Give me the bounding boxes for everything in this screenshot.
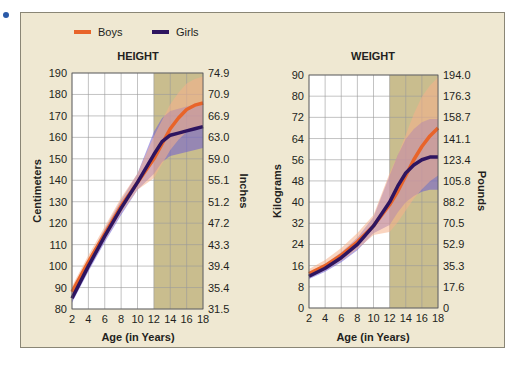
x-tick-label: 12 [148, 313, 160, 325]
y-tick-label-right: 35.3 [443, 260, 464, 272]
weight-ylabel: Kilograms [271, 164, 283, 218]
y-tick-label: 64 [292, 133, 304, 145]
y-tick-label: 16 [292, 260, 304, 272]
height-chart: HEIGHT Age (in Years) Centimeters Inches… [31, 50, 250, 343]
x-tick-label: 6 [102, 313, 108, 325]
x-tick-label: 4 [322, 312, 328, 324]
y-tick-label-right: 176.3 [443, 90, 471, 102]
y-tick-label: 130 [49, 196, 67, 208]
weight-ylabel-right: Pounds [476, 171, 488, 211]
x-tick-label: 16 [181, 313, 193, 325]
x-tick-label: 14 [164, 313, 176, 325]
y-tick-label-right: 51.2 [208, 196, 229, 208]
x-tick-label: 14 [400, 312, 412, 324]
legend-swatch-boys [74, 30, 91, 34]
x-tick-label: 8 [118, 313, 124, 325]
y-tick-label-right: 63.0 [208, 131, 229, 143]
y-tick-label-right: 17.6 [443, 281, 464, 293]
y-tick-label: 190 [49, 67, 67, 79]
y-tick-label-right: 43.3 [208, 239, 229, 251]
x-tick-label: 2 [306, 312, 312, 324]
y-tick-label: 120 [49, 217, 67, 229]
x-tick-label: 10 [131, 313, 143, 325]
y-tick-label-right: 47.2 [208, 217, 229, 229]
y-tick-label: 90 [292, 69, 304, 81]
y-tick-label-right: 66.9 [208, 110, 229, 122]
x-tick-label: 6 [338, 312, 344, 324]
y-tick-label-right: 39.4 [208, 260, 229, 272]
y-tick-label: 32 [292, 217, 304, 229]
y-tick-label-right: 52.9 [443, 238, 464, 250]
y-tick-label-right: 88.2 [443, 196, 464, 208]
x-tick-label: 16 [416, 312, 428, 324]
y-tick-label: 72 [292, 111, 304, 123]
y-tick-label-right: 55.1 [208, 174, 229, 186]
x-tick-label: 2 [69, 313, 75, 325]
height-xlabel: Age (in Years) [101, 331, 174, 343]
y-tick-label: 100 [49, 260, 67, 272]
y-tick-label-right: 141.1 [443, 133, 471, 145]
weight-title: WEIGHT [351, 50, 395, 62]
y-tick-label: 180 [49, 88, 67, 100]
y-tick-label: 160 [49, 131, 67, 143]
y-tick-label: 80 [55, 303, 67, 315]
y-tick-label-right: 70.5 [443, 217, 464, 229]
y-tick-label: 40 [292, 196, 304, 208]
y-tick-label: 170 [49, 110, 67, 122]
y-tick-label: 0 [298, 302, 304, 314]
legend-label-boys: Boys [98, 26, 123, 38]
y-tick-label: 8 [298, 281, 304, 293]
height-ylabel: Centimeters [31, 159, 43, 223]
x-tick-label: 10 [367, 312, 379, 324]
y-tick-label-right: 31.5 [208, 303, 229, 315]
height-title: HEIGHT [117, 50, 159, 62]
legend-label-girls: Girls [176, 26, 199, 38]
y-tick-label-right: 74.9 [208, 67, 229, 79]
x-tick-label: 18 [197, 313, 209, 325]
legend: Boys Girls [74, 26, 199, 38]
x-tick-label: 8 [354, 312, 360, 324]
y-tick-label-right: 158.7 [443, 111, 471, 123]
y-tick-label: 140 [49, 174, 67, 186]
y-tick-label: 24 [292, 238, 304, 250]
x-tick-label: 12 [384, 312, 396, 324]
y-tick-label-right: 70.9 [208, 88, 229, 100]
y-tick-label-right: 194.0 [443, 69, 471, 81]
y-tick-label: 90 [55, 282, 67, 294]
weight-chart: WEIGHT Age (in Years) Kilograms Pounds 0… [271, 50, 488, 343]
y-tick-label: 150 [49, 153, 67, 165]
y-tick-label-right: 59.0 [208, 153, 229, 165]
y-tick-label: 80 [292, 90, 304, 102]
y-tick-label: 110 [49, 239, 67, 251]
y-tick-label-right: 123.4 [443, 154, 471, 166]
x-tick-label: 18 [432, 312, 444, 324]
height-ylabel-right: Inches [238, 174, 250, 209]
y-tick-label-right: 35.4 [208, 282, 229, 294]
y-tick-label: 48 [292, 175, 304, 187]
legend-swatch-girls [152, 30, 169, 34]
growth-charts: Boys Girls HEIGHT Age (in Years) Centime… [0, 0, 515, 367]
weight-xlabel: Age (in Years) [336, 331, 409, 343]
x-tick-label: 4 [85, 313, 91, 325]
y-tick-label-right: 105.8 [443, 175, 471, 187]
y-tick-label: 56 [292, 154, 304, 166]
